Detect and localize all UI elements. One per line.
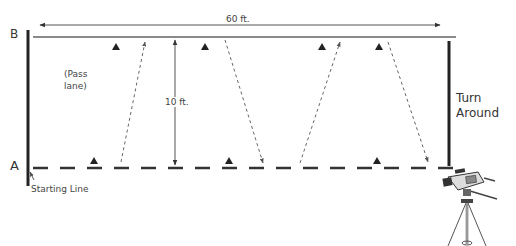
diagram-canvas: [0, 0, 516, 246]
cone-markers: [90, 43, 383, 164]
cone-icon: [201, 43, 209, 50]
point-b-label: B: [10, 28, 18, 42]
pass-lane-label-line2: lane): [64, 81, 87, 91]
cone-icon: [375, 43, 383, 50]
starting-line-label: Starting Line: [31, 184, 89, 194]
pass-path-1: [121, 42, 145, 162]
cone-icon: [112, 43, 120, 50]
cone-icon: [318, 43, 326, 50]
drill-diagram: 60 ft. B (Pass lane) 10 ft. Turn Around …: [0, 0, 516, 246]
pass-path-4: [388, 42, 428, 162]
pass-path-3: [300, 42, 340, 163]
cone-icon: [225, 157, 233, 164]
cone-icon: [373, 157, 381, 164]
turn-around-label-line1: Turn: [456, 91, 481, 106]
turn-around-label-line2: Around: [456, 106, 499, 121]
pass-path-2: [225, 40, 263, 163]
point-a-label: A: [10, 159, 19, 174]
width-label: 10 ft.: [165, 97, 189, 107]
video-camera-icon: [442, 168, 497, 246]
length-label: 60 ft.: [226, 14, 250, 24]
cone-icon: [90, 157, 98, 164]
pass-lane-label-line1: (Pass: [64, 69, 87, 79]
starting-line-pointer: [30, 172, 34, 180]
